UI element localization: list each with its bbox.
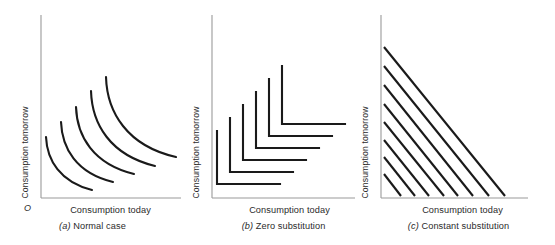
panel-a-tag: (a) xyxy=(59,221,73,231)
x-axis-label: Consumption today xyxy=(370,205,555,215)
panel-a-normal-case: Consumption tomorrow O Consumption today… xyxy=(0,0,185,245)
indifference-curve xyxy=(243,105,306,160)
panel-c-constant-substitution: Consumption tomorrow Consumption today (… xyxy=(370,0,555,245)
indifference-curve xyxy=(384,47,505,196)
indifference-curve xyxy=(217,131,280,184)
indifference-curves-convex xyxy=(46,77,176,190)
panel-b-title: Zero substitution xyxy=(256,221,325,231)
panel-a-title: Normal case xyxy=(73,221,126,231)
indifference-curve-figure: Consumption tomorrow O Consumption today… xyxy=(0,0,555,245)
indifference-curve xyxy=(91,91,155,166)
indifference-curve xyxy=(76,107,134,174)
indifference-curve xyxy=(384,157,415,196)
panel-c-tag: (c) xyxy=(408,221,422,231)
indifference-curve xyxy=(282,66,345,124)
indifference-curve xyxy=(230,118,293,172)
x-axis-label: Consumption today xyxy=(197,205,382,215)
panel-c-title: Constant substitution xyxy=(421,221,509,231)
panel-b-caption: (b)Zero substitution xyxy=(191,221,376,231)
indifference-curve xyxy=(256,92,319,148)
indifference-curve xyxy=(106,77,176,157)
panel-b-tag: (b) xyxy=(242,221,256,231)
indifference-curves-linear xyxy=(384,47,505,196)
indifference-curve xyxy=(61,122,113,182)
indifference-curve xyxy=(46,137,92,190)
panel-b-zero-substitution: Consumption tomorrow Consumption today (… xyxy=(185,0,370,245)
panel-c-caption: (c)Constant substitution xyxy=(366,221,551,231)
x-axis-label: Consumption today xyxy=(18,205,203,215)
indifference-curve xyxy=(384,104,458,196)
indifference-curve xyxy=(384,174,401,196)
indifference-curves-l-shaped xyxy=(217,66,345,184)
indifference-curve xyxy=(269,79,332,136)
panel-a-caption: (a)Normal case xyxy=(0,221,185,231)
